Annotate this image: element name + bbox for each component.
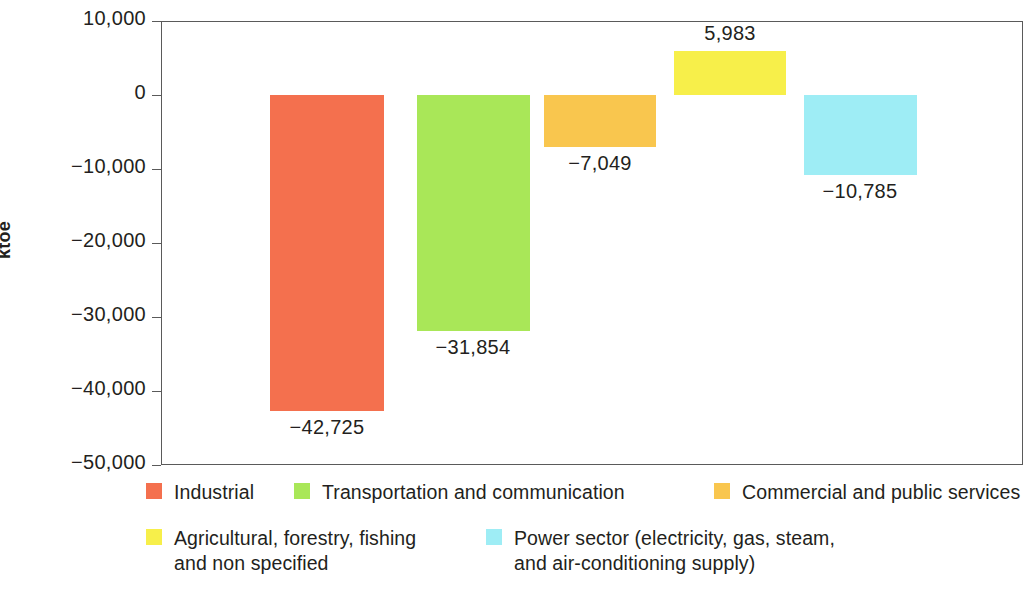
bar-chart: ktoe 10,0000−10,000−20,000−30,000−40,000… <box>0 0 1034 591</box>
y-tick-label: −20,000 <box>71 229 146 252</box>
bar-transportation <box>417 95 530 331</box>
y-axis-title: ktoe <box>0 200 15 280</box>
legend-swatch-icon <box>294 483 310 499</box>
bar-commercial <box>544 95 656 147</box>
legend-item[interactable]: Industrial <box>146 480 254 505</box>
bar-power-sector <box>804 95 917 175</box>
legend-label: Power sector (electricity, gas, steam, a… <box>514 526 835 576</box>
bar-industrial <box>270 95 384 411</box>
bar-label-power-sector: −10,785 <box>760 180 960 203</box>
legend-swatch-icon <box>146 483 162 499</box>
legend-label: Agricultural, forestry, fishing and non … <box>174 526 416 576</box>
legend-item[interactable]: Commercial and public services <box>714 480 1020 505</box>
legend-item[interactable]: Agricultural, forestry, fishing and non … <box>146 526 416 576</box>
bar-label-agricultural: 5,983 <box>630 22 830 45</box>
y-tick-mark <box>152 243 161 244</box>
y-tick-label: −10,000 <box>71 155 146 178</box>
y-tick-mark <box>152 465 161 466</box>
y-tick-mark <box>152 21 161 22</box>
legend-label: Industrial <box>174 480 254 505</box>
y-tick-label: −50,000 <box>71 451 146 474</box>
y-tick-label: 0 <box>135 81 146 104</box>
y-tick-mark <box>152 95 161 96</box>
legend-label: Transportation and communication <box>322 480 625 505</box>
bar-agricultural <box>674 51 786 95</box>
legend-item[interactable]: Transportation and communication <box>294 480 625 505</box>
bar-label-industrial: −42,725 <box>227 416 427 439</box>
legend-label: Commercial and public services <box>742 480 1020 505</box>
y-tick-mark <box>152 169 161 170</box>
y-tick-label: 10,000 <box>83 7 146 30</box>
legend-swatch-icon <box>714 483 730 499</box>
bar-label-commercial: −7,049 <box>500 152 700 175</box>
y-tick-mark <box>152 391 161 392</box>
y-tick-label: −40,000 <box>71 377 146 400</box>
y-tick-mark <box>152 317 161 318</box>
bar-label-transportation: −31,854 <box>373 336 573 359</box>
legend-swatch-icon <box>146 529 162 545</box>
legend-item[interactable]: Power sector (electricity, gas, steam, a… <box>486 526 835 576</box>
y-tick-label: −30,000 <box>71 303 146 326</box>
legend-swatch-icon <box>486 529 502 545</box>
